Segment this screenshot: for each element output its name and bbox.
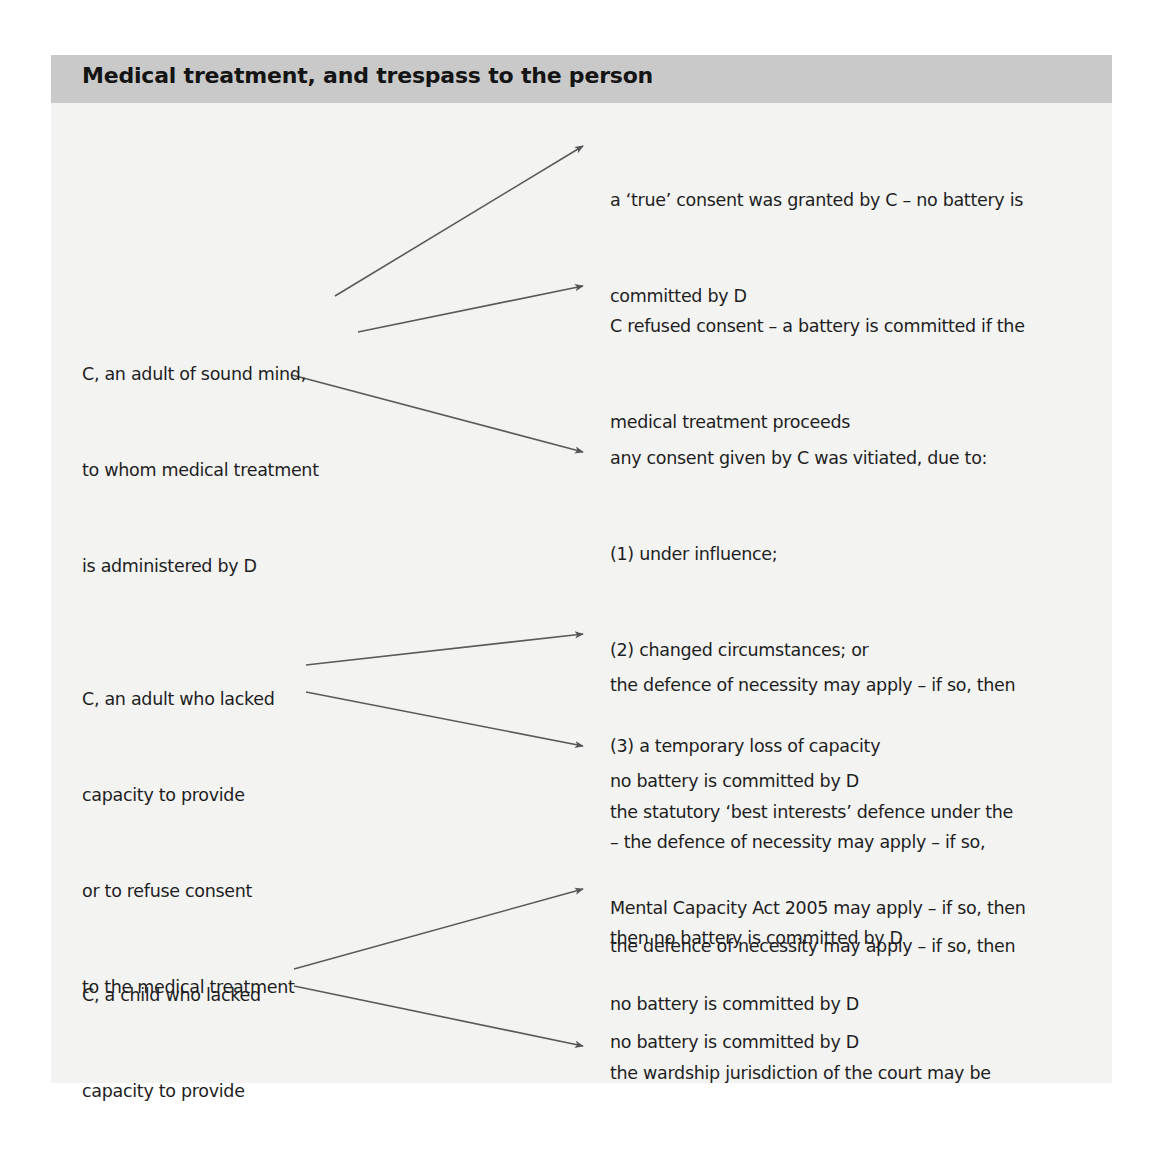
source-adult-sound-mind: C, an adult of sound mind, to whom medic… (82, 294, 319, 614)
text-line: C, an adult who lacked (82, 683, 295, 715)
arrow-adult-lacking-to-best-interests (306, 692, 583, 746)
text-line: the statutory ‘best interests’ defence u… (610, 796, 1026, 828)
text-line: is administered by D (82, 550, 319, 582)
text-line: the defence of necessity may apply – if … (610, 930, 1015, 962)
text-line: capacity to provide (82, 1075, 295, 1107)
arrow-adult-lacking-to-necessity (306, 634, 583, 665)
text-line: or to refuse consent (82, 875, 295, 907)
text-line: the defence of necessity may apply – if … (610, 669, 1015, 701)
text-line: C refused consent – a battery is committ… (610, 310, 1025, 342)
text-line: the wardship jurisdiction of the court m… (610, 1057, 1022, 1089)
text-line: C, an adult of sound mind, (82, 358, 319, 390)
arrow-adult-sound-to-vitiated-consent (292, 375, 583, 452)
arrow-adult-sound-to-true-consent (335, 146, 583, 296)
arrow-adult-sound-to-refused-consent (358, 286, 583, 332)
text-line: C, a child who lacked (82, 979, 295, 1011)
arrow-child-to-wardship (294, 986, 583, 1046)
text-line: a ‘true’ consent was granted by C – no b… (610, 184, 1023, 216)
arrow-child-to-necessity (294, 889, 583, 969)
text-line: (1) under influence; (610, 538, 987, 570)
outcome-wardship: the wardship jurisdiction of the court m… (610, 993, 1022, 1154)
text-line: any consent given by C was vitiated, due… (610, 442, 987, 474)
source-child-lacking-capacity: C, a child who lacked capacity to provid… (82, 915, 295, 1154)
text-line: capacity to provide (82, 779, 295, 811)
text-line: to whom medical treatment (82, 454, 319, 486)
